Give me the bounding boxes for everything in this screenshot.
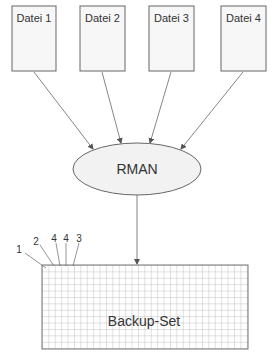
file-box-2: Datei 2 [80,6,125,71]
marker-label-5: 3 [76,233,82,244]
marker-line-2 [40,245,54,266]
rman-process: RMAN [73,143,201,195]
marker-line-3 [56,243,60,266]
block-markers: 1 2 4 4 3 [16,233,82,268]
arrow-file4-to-rman [181,72,243,149]
file-box-4: Datei 4 [221,6,266,71]
marker-label-3: 4 [51,233,57,244]
backup-set-label: Backup-Set [108,313,180,329]
file-label-4: Datei 4 [226,12,261,24]
file-box-3: Datei 3 [149,6,194,71]
file-box-1: Datei 1 [12,6,56,71]
arrow-file2-to-rman [102,72,121,143]
marker-line-1 [25,253,46,268]
arrow-file3-to-rman [150,72,171,143]
backup-diagram: Datei 1 Datei 2 Datei 3 Datei 4 RMAN Bac… [0,0,273,359]
file-label-1: Datei 1 [17,12,52,24]
marker-label-2: 2 [33,236,39,247]
arrow-file1-to-rman [34,72,93,149]
marker-label-4: 4 [63,233,69,244]
rman-label: RMAN [116,161,157,177]
backup-set: Backup-Set [42,265,248,349]
file-label-2: Datei 2 [85,12,120,24]
marker-label-1: 1 [16,244,22,255]
marker-line-5 [73,243,79,266]
file-label-3: Datei 3 [154,12,189,24]
